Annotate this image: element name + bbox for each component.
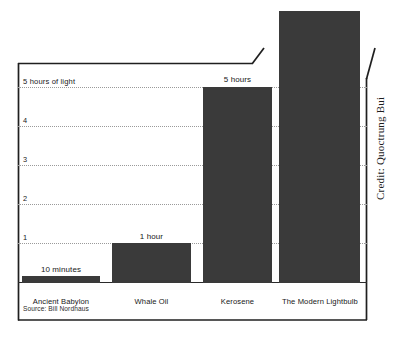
bar-value-label-ancient-babylon: 10 minutes xyxy=(22,265,100,274)
bar-value-label-kerosene: 5 hours xyxy=(203,75,272,84)
axis-break-right-slash xyxy=(367,48,376,79)
source-note: Source: Bill Nordhaus xyxy=(23,305,89,312)
bar-ancient-babylon[interactable] xyxy=(22,276,100,283)
bar-kerosene[interactable] xyxy=(203,87,272,283)
chart-figure: 5 hours of light 4 3 2 1 10 minutes Anci… xyxy=(0,0,407,338)
bar-series: 10 minutes Ancient Babylon 1 hour Whale … xyxy=(18,63,367,320)
credit-label: Credit: Quoctrung Bui xyxy=(374,97,386,200)
category-label-whale-oil: Whale Oil xyxy=(112,297,191,306)
bar-whale-oil[interactable] xyxy=(112,243,191,283)
plot-area: 5 hours of light 4 3 2 1 10 minutes Anci… xyxy=(18,63,367,320)
bar-modern-lightbulb[interactable] xyxy=(279,11,360,283)
bar-value-label-whale-oil: 1 hour xyxy=(112,232,191,241)
category-label-kerosene: Kerosene xyxy=(203,297,272,306)
axis-break-top-slash xyxy=(252,48,264,64)
category-label-modern-lightbulb: The Modern Lightbulb xyxy=(273,297,367,306)
